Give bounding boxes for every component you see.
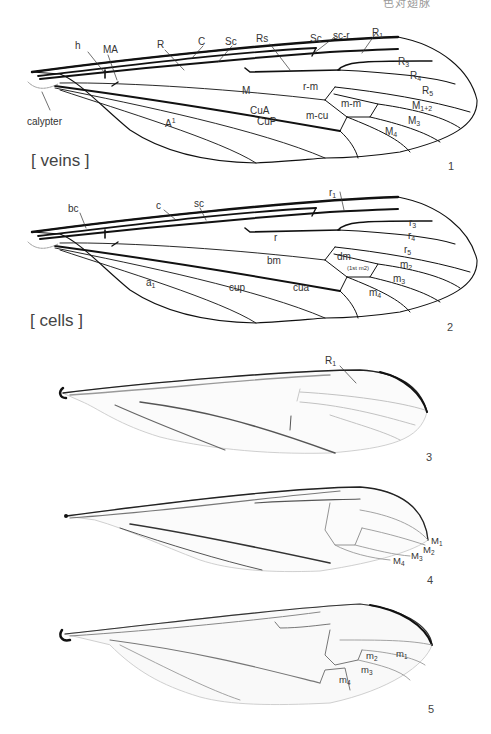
label-c: c bbox=[156, 200, 161, 211]
label-m4: m4 bbox=[369, 287, 381, 299]
label-r1: r1 bbox=[329, 187, 336, 199]
label-photo4-M3: M3 bbox=[411, 550, 423, 562]
label-sc: sc bbox=[194, 198, 204, 209]
wing-diagram-cells bbox=[28, 192, 477, 323]
label-sc-r: sc-r bbox=[333, 30, 350, 41]
label-M: M bbox=[242, 85, 250, 96]
label-dm-note: (1st m2) bbox=[347, 265, 369, 271]
label-C: C bbox=[198, 36, 205, 47]
label-cua: cua bbox=[293, 282, 310, 293]
label-R1: R1 bbox=[372, 27, 383, 39]
wing-photo-4 bbox=[64, 487, 428, 572]
label-a1: a1 bbox=[146, 277, 156, 289]
figure-number-5: 5 bbox=[428, 703, 434, 715]
label-bc: bc bbox=[68, 203, 79, 214]
label-r4: r4 bbox=[408, 230, 415, 242]
label-Sc-2: Sc bbox=[310, 33, 322, 44]
label-photo4-M1: M1 bbox=[431, 535, 443, 547]
label-M3: M3 bbox=[408, 115, 420, 127]
label-h: h bbox=[75, 40, 81, 51]
label-MA: MA bbox=[103, 44, 118, 55]
label-r3: r3 bbox=[409, 217, 416, 229]
label-calypter: calypter bbox=[27, 116, 63, 127]
label-R4: R4 bbox=[410, 70, 421, 82]
label-Sc-1: Sc bbox=[225, 36, 237, 47]
label-CuA: CuA bbox=[250, 105, 270, 116]
figure-number-4: 4 bbox=[427, 574, 433, 586]
section-label-cells: [ cells ] bbox=[30, 311, 83, 330]
wing-diagram-veins bbox=[28, 33, 477, 163]
label-photo4-M4: M4 bbox=[393, 555, 405, 567]
figure-number-2: 2 bbox=[447, 321, 453, 333]
label-dm: dm bbox=[337, 251, 351, 262]
label-photo3-R1: R1 bbox=[325, 355, 336, 367]
label-m-m: m-m bbox=[341, 98, 361, 109]
label-A1: A1 bbox=[165, 117, 176, 129]
figure-number-1: 1 bbox=[448, 160, 454, 172]
label-CuP: CuP bbox=[257, 116, 277, 127]
label-m2: m2 bbox=[400, 259, 412, 271]
vein-labels: h MA R C Sc Rs Sc sc-r R1 R3 R4 R5 M r-m… bbox=[27, 27, 433, 138]
figure-number-3: 3 bbox=[426, 451, 432, 463]
label-R: R bbox=[157, 39, 164, 50]
label-m-cu: m-cu bbox=[306, 110, 328, 121]
label-r-m: r-m bbox=[303, 81, 318, 92]
label-M4: M4 bbox=[385, 126, 397, 138]
label-r5: r5 bbox=[404, 244, 411, 256]
label-m3: m3 bbox=[393, 273, 405, 285]
wing-photo-3 bbox=[60, 366, 427, 453]
label-cup: cup bbox=[229, 282, 246, 293]
wing-figure-plate: h MA R C Sc Rs Sc sc-r R1 R3 R4 R5 M r-m… bbox=[0, 0, 491, 734]
label-bm: bm bbox=[267, 255, 281, 266]
section-label-veins: [ veins ] bbox=[31, 151, 90, 170]
label-R5: R5 bbox=[422, 85, 433, 97]
label-R3: R3 bbox=[398, 56, 409, 68]
label-Rs: Rs bbox=[256, 33, 268, 44]
label-r: r bbox=[274, 232, 278, 243]
